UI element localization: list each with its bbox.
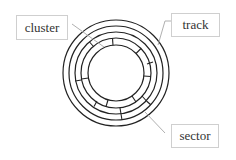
sector-label: sector — [171, 124, 219, 148]
cluster-label-text: cluster — [25, 20, 60, 36]
track-label-text: track — [183, 17, 209, 33]
sector-pointer — [145, 112, 165, 133]
disk-tracks — [63, 20, 169, 126]
track-ring-3 — [75, 32, 157, 114]
cluster-label: cluster — [16, 15, 68, 40]
track-ring-1 — [63, 20, 169, 126]
track-ring-5 — [88, 45, 144, 101]
track-pointer — [158, 21, 171, 45]
track-ring-2 — [69, 26, 163, 120]
sector-label-text: sector — [179, 128, 210, 144]
track-label: track — [171, 13, 220, 37]
